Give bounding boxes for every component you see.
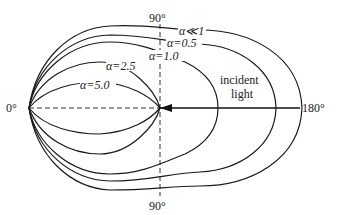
- curve-label-alpha-1.0: α=1.0: [149, 49, 178, 63]
- curve-label-alpha-0.5: α=0.5: [167, 36, 196, 50]
- curve-label-alpha-2.5: α=2.5: [106, 59, 135, 73]
- scattering-diagram: 90° 90° 0° 180° α≪1 α=0.5 α=1.0 α=2.5 α=…: [0, 0, 338, 215]
- angle-label-bottom: 90°: [149, 199, 166, 213]
- angle-label-right: 180°: [302, 101, 325, 115]
- incident-label-line1: incident: [220, 73, 259, 87]
- angle-label-top: 90°: [149, 11, 166, 25]
- diagram-canvas: 90° 90° 0° 180° α≪1 α=0.5 α=1.0 α=2.5 α=…: [0, 0, 338, 215]
- angle-label-left: 0°: [6, 101, 17, 115]
- curve-label-alpha-5.0: α=5.0: [80, 78, 109, 92]
- incident-label-line2: light: [231, 87, 254, 101]
- arrow-icon: [160, 104, 172, 112]
